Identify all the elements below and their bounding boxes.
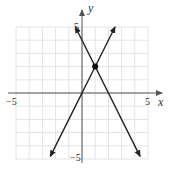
line-2 [75,27,140,156]
line-1 [50,27,115,156]
intersection-point [92,64,98,70]
points [92,64,98,70]
x-max-tick-label: 5 [145,97,150,107]
y-max-tick-label: 5 [74,22,79,32]
x-axis-label: x [158,96,163,108]
coordinate-plane [0,0,170,170]
x-min-tick-label: −5 [6,97,17,107]
y-min-tick-label: −5 [70,153,81,163]
y-axis-label: y [88,2,93,14]
